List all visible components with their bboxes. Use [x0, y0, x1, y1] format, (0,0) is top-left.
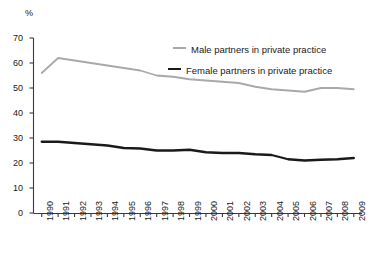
x-tick-label: 1990	[46, 201, 55, 221]
legend-entry-male: Male partners in private practice	[173, 43, 326, 55]
x-tick-label: 2008	[341, 201, 350, 221]
y-tick-label: 10	[3, 184, 23, 193]
legend-swatch-female	[168, 68, 181, 70]
y-tick-label: 50	[3, 84, 23, 93]
x-tick-label: 1993	[95, 201, 104, 221]
y-tick-label: 30	[3, 134, 23, 143]
series-line-female	[42, 142, 354, 161]
x-tick-label: 2004	[276, 201, 285, 221]
legend-label-male: Male partners in private practice	[191, 44, 326, 55]
x-tick-label: 1996	[144, 201, 153, 221]
x-tick-label: 1992	[79, 201, 88, 221]
y-tick-label: 40	[3, 109, 23, 118]
y-tick-label: 70	[3, 34, 23, 43]
x-tick-label: 2003	[259, 201, 268, 221]
x-tick-label: 1991	[62, 201, 71, 221]
legend-entry-female: Female partners in private practice	[168, 64, 332, 76]
x-tick-label: 2000	[210, 201, 219, 221]
x-tick-label: 2007	[325, 201, 334, 221]
x-tick-label: 1999	[194, 201, 203, 221]
x-tick-label: 2006	[309, 201, 318, 221]
line-chart: % 010203040506070 1990199119921993199419…	[0, 0, 373, 269]
x-tick-label: 1994	[111, 201, 120, 221]
x-tick-label: 1995	[128, 201, 137, 221]
y-tick-label: 60	[3, 59, 23, 68]
legend-swatch-male	[173, 47, 186, 49]
x-tick-label: 2005	[292, 201, 301, 221]
y-tick-label: 0	[3, 209, 23, 218]
y-axis-ticks	[30, 38, 34, 213]
x-tick-label: 1998	[177, 201, 186, 221]
legend-label-female: Female partners in private practice	[186, 65, 332, 76]
x-tick-label: 1997	[161, 201, 170, 221]
plot-area	[0, 0, 373, 269]
x-tick-label: 2009	[358, 201, 367, 221]
y-tick-label: 20	[3, 159, 23, 168]
x-tick-label: 2002	[243, 201, 252, 221]
x-tick-label: 2001	[226, 201, 235, 221]
